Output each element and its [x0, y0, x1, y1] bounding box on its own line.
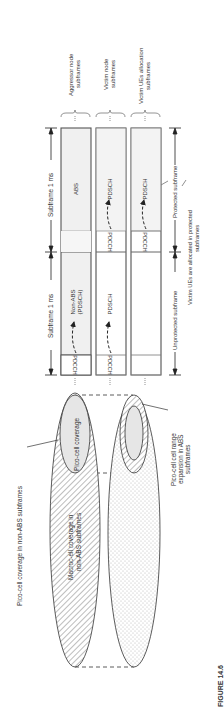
svg-text:subframes: subframes	[145, 62, 151, 90]
svg-text:Victim UEs allocation: Victim UEs allocation	[138, 48, 144, 104]
cre-label-line3: subframes	[184, 445, 191, 474]
pico-coverage-label: Pico-cell coverage	[73, 418, 81, 471]
row-label-victim: Victim node subframes	[103, 58, 116, 90]
macro-label-line2: non-ABS subframes	[75, 512, 82, 571]
row-label-aggressor: Aggressor node subframes	[68, 53, 81, 96]
victim-ue-note: Victim UEs are allocated in protected su…	[187, 210, 200, 305]
pdcch-label-victim-ue: PDCCH	[142, 232, 148, 252]
unprotected-subframe-label: Unprotected subframe	[172, 290, 178, 350]
svg-text:Victim UEs are allocated in pr: Victim UEs are allocated in protected	[187, 210, 193, 305]
pdcch-label-victim-unprotected: PDCCH	[107, 355, 113, 375]
macro-label-line1: Macroc-ell coverage in	[67, 514, 75, 580]
pdsch-label-victim-unprotected: PDSCH	[107, 293, 113, 314]
pdcch-label-victim-protected: PDCCH	[107, 232, 113, 252]
pdsch-label-victim-protected: PDSCH	[107, 178, 113, 199]
abs-label: ABS	[73, 183, 79, 195]
svg-text:subframes: subframes	[110, 60, 116, 88]
non-abs-pdsch-label: (PDSCH)	[77, 289, 83, 314]
pico-non-abs-label: Pico-cell coverage in non-ABS subframes	[16, 485, 24, 606]
svg-text:subframes: subframes	[194, 225, 200, 252]
subframe-1ms-label-protected: Subframe 1 ms	[47, 172, 54, 217]
figure-caption: FIGURE 14.6	[217, 665, 224, 707]
protected-subframe-label: Protected subframe	[172, 165, 178, 218]
svg-text:Aggressor node: Aggressor node	[68, 53, 74, 96]
coverage-diagram: Pico-cell coverage Macroc-ell coverage i…	[16, 393, 191, 667]
non-abs-label: Non-ABS	[70, 289, 76, 314]
svg-text:subframes: subframes	[75, 60, 81, 88]
pdsch-label-victim-ue: PDSCH	[142, 178, 148, 199]
svg-text:Victim node: Victim node	[103, 58, 109, 90]
row-label-victim-ue: Victim UEs allocation subframes	[138, 48, 151, 104]
pico-inner-ellipse	[125, 406, 143, 460]
victim-ue-column: PDSCH PDCCH	[131, 128, 161, 375]
aggressor-column: ABS Non-ABS (PDSCH) PDCCH	[61, 128, 91, 375]
figure-diagram: Aggressor node subframes Victim node sub…	[0, 0, 224, 708]
subframe-1ms-label-unprotected: Subframe 1 ms	[47, 293, 54, 338]
pdcch-label-aggressor: PDCCH	[72, 355, 78, 375]
victim-column: PDSCH PDSCH PDCCH PDCCH	[96, 128, 126, 375]
